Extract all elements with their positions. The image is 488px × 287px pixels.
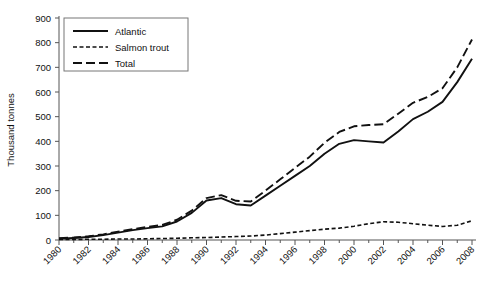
- x-axis-tick-label: 1996: [277, 244, 300, 267]
- x-axis: 1980198219841986198819901992199419961998…: [41, 240, 477, 266]
- y-axis-tick-label: 600: [35, 87, 51, 98]
- y-axis: 0100200300400500600700800900: [35, 13, 59, 246]
- y-axis-tick-label: 300: [35, 161, 51, 172]
- y-axis-title: Thousand tonnes: [5, 93, 16, 167]
- x-axis-tick-label: 1992: [218, 244, 241, 267]
- y-axis-tick-label: 500: [35, 111, 51, 122]
- x-axis-tick-label: 1998: [306, 244, 329, 267]
- x-axis-tick-label: 2008: [454, 244, 477, 267]
- legend-label-salmon-trout: Salmon trout: [115, 42, 169, 53]
- x-axis-tick-label: 1990: [188, 244, 211, 267]
- x-axis-tick-label: 1994: [247, 244, 270, 267]
- legend-label-total: Total: [115, 58, 135, 69]
- legend-label-atlantic: Atlantic: [115, 26, 146, 37]
- series-line-salmon-trout: [59, 221, 472, 240]
- x-axis-tick-label: 1986: [129, 244, 152, 267]
- y-axis-tick-label: 800: [35, 37, 51, 48]
- line-chart: 0100200300400500600700800900 19801982198…: [0, 0, 488, 287]
- y-axis-tick-label: 900: [35, 13, 51, 24]
- x-axis-tick-label: 2000: [336, 244, 359, 267]
- x-axis-tick-label: 1988: [159, 244, 182, 267]
- y-axis-tick-label: 200: [35, 185, 51, 196]
- x-axis-tick-label: 2004: [395, 244, 418, 267]
- chart-container: 0100200300400500600700800900 19801982198…: [0, 0, 488, 287]
- x-axis-tick-label: 1984: [100, 244, 123, 267]
- x-axis-tick-label: 2002: [365, 244, 388, 267]
- x-axis-tick-label: 1980: [41, 244, 64, 267]
- series-line-atlantic: [59, 59, 472, 239]
- chart-legend: AtlanticSalmon troutTotal: [64, 18, 188, 71]
- y-axis-tick-label: 700: [35, 62, 51, 73]
- y-axis-tick-label: 0: [46, 235, 51, 246]
- x-axis-tick-label: 2006: [424, 244, 447, 267]
- x-axis-tick-label: 1982: [70, 244, 93, 267]
- y-axis-tick-label: 100: [35, 210, 51, 221]
- y-axis-tick-label: 400: [35, 136, 51, 147]
